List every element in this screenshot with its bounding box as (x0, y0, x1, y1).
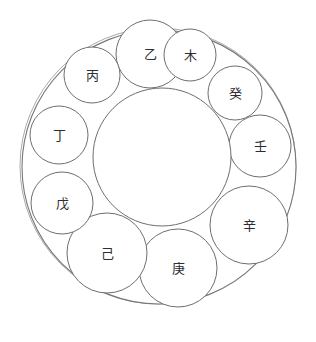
inner-core-circle (93, 88, 231, 226)
ring-diagram-canvas: 乙木癸壬辛庚己戊丁丙 (0, 0, 316, 342)
stem-label-ren: 壬 (254, 139, 267, 154)
stem-label-wu: 戊 (56, 196, 69, 211)
ring-diagram: 乙木癸壬辛庚己戊丁丙 (0, 0, 316, 342)
stem-label-yi: 乙 (144, 47, 157, 62)
stem-label-ji: 己 (101, 246, 114, 261)
stem-label-mu: 木 (184, 48, 197, 63)
stem-label-bing: 丙 (86, 68, 99, 83)
stem-label-geng: 庚 (172, 261, 185, 276)
stem-label-xin: 辛 (243, 218, 256, 233)
stem-label-gui: 癸 (229, 86, 242, 101)
stem-label-ding: 丁 (53, 128, 66, 143)
